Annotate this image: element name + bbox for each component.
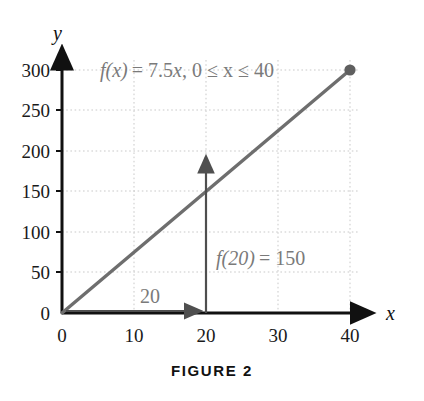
x-tick-label-30: 30 bbox=[269, 325, 288, 346]
function-graph: y x 300 250 200 150 100 50 0 0 10 20 30 … bbox=[0, 0, 424, 401]
equation-rhs: = 7.5 bbox=[132, 59, 173, 81]
figure-caption: FIGURE 2 bbox=[0, 362, 424, 379]
x-tick-labels: 0 10 20 30 40 bbox=[57, 325, 359, 346]
svg-text:f(x)= 7.5x, 0 ≤ x ≤ 40: f(x)= 7.5x, 0 ≤ x ≤ 40 bbox=[100, 59, 274, 82]
value-callout-annotation: f(20)= 150 bbox=[216, 247, 305, 270]
equation-annotation: f(x)= 7.5x, 0 ≤ x ≤ 40 bbox=[100, 59, 274, 82]
svg-text:f(20)= 150: f(20)= 150 bbox=[216, 247, 305, 270]
endpoint-marker-dot bbox=[344, 64, 355, 75]
figure-container: y x 300 250 200 150 100 50 0 0 10 20 30 … bbox=[0, 0, 424, 401]
x-axis-label: x bbox=[385, 302, 395, 324]
interval-label: 20 bbox=[140, 285, 160, 307]
y-tick-label-100: 100 bbox=[22, 222, 51, 243]
y-axis-label: y bbox=[51, 22, 62, 45]
y-tick-label-200: 200 bbox=[22, 141, 51, 162]
y-tick-label-300: 300 bbox=[22, 60, 51, 81]
equation-var: x bbox=[172, 59, 182, 81]
x-tick-label-0: 0 bbox=[57, 325, 67, 346]
x-tick-label-10: 10 bbox=[125, 325, 144, 346]
x-tick-label-40: 40 bbox=[341, 325, 360, 346]
equation-condition: , 0 ≤ x ≤ 40 bbox=[182, 59, 274, 81]
y-tick-label-0: 0 bbox=[41, 303, 51, 324]
y-tick-label-250: 250 bbox=[22, 100, 51, 121]
y-tick-label-150: 150 bbox=[22, 181, 51, 202]
y-tick-labels: 300 250 200 150 100 50 0 bbox=[22, 60, 51, 324]
callout-arg: (20) bbox=[222, 247, 256, 270]
x-tick-label-20: 20 bbox=[197, 325, 216, 346]
y-tick-label-50: 50 bbox=[31, 262, 50, 283]
equation-arg: (x) bbox=[106, 59, 129, 82]
callout-rhs: = 150 bbox=[259, 247, 305, 269]
